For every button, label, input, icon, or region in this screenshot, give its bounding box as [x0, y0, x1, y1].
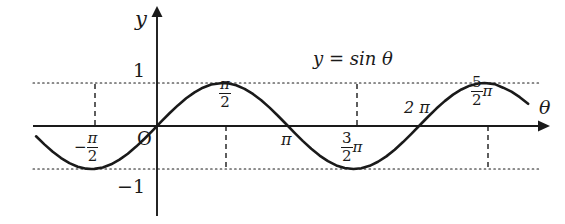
x-tick-label-pi: π [281, 132, 292, 148]
denominator: 2 [87, 149, 99, 164]
x-axis-label: θ [539, 98, 550, 117]
graph-canvas [0, 0, 565, 224]
numerator: 3 [341, 131, 353, 146]
x-tick-label-pi-over-2: π 2 [219, 77, 231, 111]
curve-equation-label: y = sin θ [313, 50, 393, 68]
y-axis-arrowhead [152, 6, 163, 17]
denominator: 2 [219, 95, 231, 110]
x-axis-arrowhead [538, 121, 550, 132]
numerator: π [87, 131, 99, 146]
x-tick-label-minus-pi-over-2: − π 2 [74, 131, 98, 165]
numerator: 5 [471, 75, 483, 90]
denominator: 2 [341, 149, 353, 164]
origin-label: O [137, 130, 152, 148]
y-tick-label-minus-1: −1 [117, 177, 145, 196]
x-tick-label-5pi-over-2: 5 2 π [471, 75, 492, 109]
y-axis-label: y [135, 9, 147, 30]
minus-sign: − [74, 140, 87, 155]
x-tick-label-3pi-over-2: 3 2 π [341, 131, 362, 165]
sine-graph-figure: y θ O 1 −1 y = sin θ − π 2 π 2 π 3 2 π 2… [0, 0, 565, 224]
y-tick-label-1: 1 [133, 61, 145, 80]
pi-suffix: π [483, 84, 493, 99]
pi-suffix: π [353, 140, 363, 155]
denominator: 2 [471, 93, 483, 108]
numerator: π [219, 77, 231, 92]
x-tick-label-2pi: 2 π [404, 100, 430, 116]
